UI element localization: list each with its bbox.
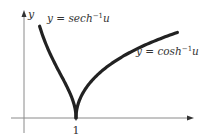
sech-label-sup: −1: [93, 12, 103, 20]
cosh-label-var: u: [192, 45, 199, 57]
sech-inverse-curve: [40, 26, 76, 118]
cosh-label-sup: −1: [182, 45, 192, 53]
sech-label-var: u: [103, 12, 110, 24]
x-axis-arrow-icon: [187, 116, 194, 121]
y-axis-arrow-icon: [22, 10, 27, 17]
cosh-inverse-label: y = cosh−1u: [135, 45, 199, 57]
sech-label-lhs: y = sech: [46, 12, 93, 24]
sech-inverse-label: y = sech−1u: [46, 12, 110, 24]
cosh-label-lhs: y = cosh: [135, 45, 182, 57]
x-tick-label: 1: [73, 124, 80, 137]
chart: y 1 y = sech−1u y = cosh−1u: [0, 0, 208, 140]
y-axis-label: y: [27, 8, 35, 21]
